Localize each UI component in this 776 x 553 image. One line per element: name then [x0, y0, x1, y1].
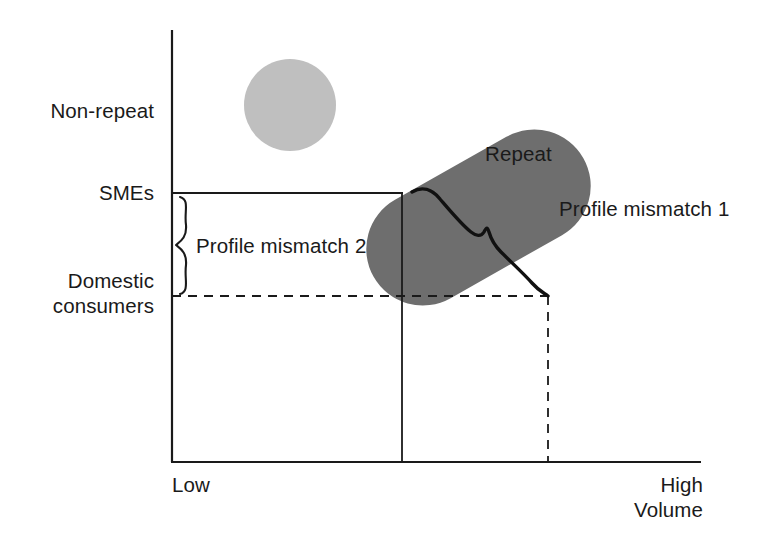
y-tick-domestic-consumers-line1: Domestic	[0, 268, 154, 293]
non-repeat-circle	[244, 59, 336, 151]
annotation-profile-mismatch-2: Profile mismatch 2	[196, 233, 366, 258]
y-tick-non-repeat: Non-repeat	[14, 98, 154, 123]
annotation-repeat: Repeat	[485, 141, 552, 166]
profile-mismatch-2-brace	[176, 197, 186, 294]
y-tick-smes: SMEs	[14, 180, 154, 205]
x-tick-low: Low	[172, 472, 210, 497]
annotation-profile-mismatch-1: Profile mismatch 1	[559, 196, 729, 221]
x-tick-high: High	[563, 472, 703, 497]
x-axis-title: Volume	[543, 497, 703, 522]
y-tick-domestic-consumers-line2: consumers	[0, 293, 154, 318]
diagram-canvas: Non-repeat SMEs Domestic consumers Profi…	[0, 0, 776, 553]
